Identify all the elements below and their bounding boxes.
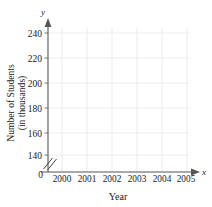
xtick-label-2000: 2000 xyxy=(53,174,72,184)
xtick-label-2001: 2001 xyxy=(78,174,97,184)
xtick-label-2003: 2003 xyxy=(128,174,147,184)
x-axis-variable-symbol: x xyxy=(201,167,206,177)
y-axis-break-mark xyxy=(44,158,57,170)
vertical-gridlines xyxy=(62,28,187,172)
xtick-label-2002: 2002 xyxy=(103,174,122,184)
ytick-label-240: 240 xyxy=(28,29,43,39)
ytick-label-220: 220 xyxy=(28,54,43,64)
horizontal-gridlines xyxy=(48,33,190,155)
y-axis xyxy=(45,18,52,172)
y-axis-title-line1: Number of Students xyxy=(5,64,16,142)
xtick-label-2004: 2004 xyxy=(153,174,172,184)
chart-figure: — —— — —— ——— — —— —— — — —— — ——— — —— xyxy=(0,0,212,207)
xtick-label-2005: 2005 xyxy=(177,174,196,184)
origin-label: 0 xyxy=(38,170,43,180)
ytick-label-200: 200 xyxy=(28,79,43,89)
ytick-label-160: 160 xyxy=(28,129,43,139)
x-axis-title: Year xyxy=(109,191,128,202)
y-axis-arrowhead xyxy=(45,18,52,27)
break-stroke-2 xyxy=(48,159,57,170)
ytick-label-140: 140 xyxy=(28,151,43,161)
x-axis-tick-labels: 2000 2001 2002 2003 2004 2005 xyxy=(53,174,196,184)
y-axis-tick-labels: 240 220 200 180 160 140 xyxy=(28,29,43,161)
y-axis-title-line2: (in thousands) xyxy=(16,76,28,131)
y-axis-title: Number of Students (in thousands) xyxy=(5,64,28,142)
y-axis-variable-symbol: y xyxy=(40,7,45,17)
coordinate-grid-plot: 240 220 200 180 160 140 0 2000 2001 2002… xyxy=(0,0,212,207)
ytick-label-180: 180 xyxy=(28,104,43,114)
